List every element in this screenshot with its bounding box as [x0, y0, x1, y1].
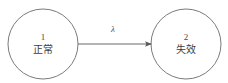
state-node-failed[interactable]: 2 失效	[151, 9, 221, 79]
state-index-1: 1	[41, 32, 46, 43]
state-index-2: 2	[184, 32, 189, 43]
state-label-1: 正常	[33, 44, 54, 56]
state-node-normal[interactable]: 1 正常	[8, 9, 78, 79]
state-label-2: 失效	[176, 44, 197, 56]
diagram-canvas: 1 正常 2 失效 λ	[0, 0, 228, 83]
transition-rate-label-lambda: λ	[103, 24, 123, 35]
